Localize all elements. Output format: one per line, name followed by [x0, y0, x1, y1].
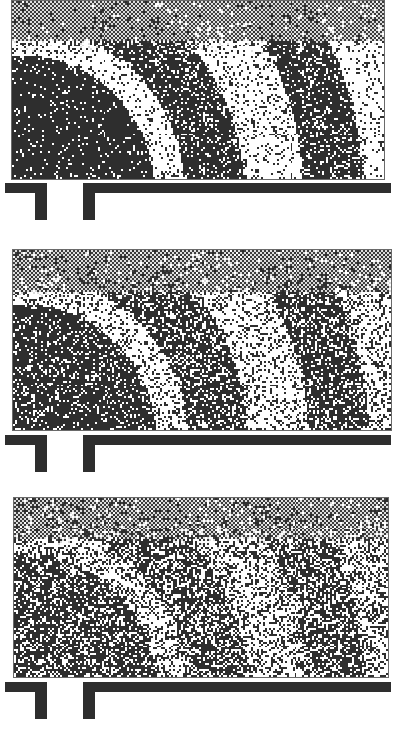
barrier-left-post	[35, 435, 47, 472]
barrier-right-post	[83, 682, 95, 719]
barrier-left-post	[35, 682, 47, 719]
barrier-right-post	[83, 435, 95, 472]
barrier-right-post	[83, 183, 95, 220]
interference-pattern-image	[12, 1, 384, 179]
interference-panel-medium-noise	[12, 249, 392, 431]
interference-panel-low-noise	[11, 0, 385, 180]
interference-pattern-image	[13, 250, 391, 430]
barrier-right-top	[83, 435, 391, 445]
barrier-right-top	[83, 682, 391, 692]
barrier-left-post	[35, 183, 47, 220]
interference-panel-high-noise	[13, 497, 389, 678]
interference-pattern-image	[14, 498, 388, 677]
barrier-right-top	[83, 183, 391, 193]
